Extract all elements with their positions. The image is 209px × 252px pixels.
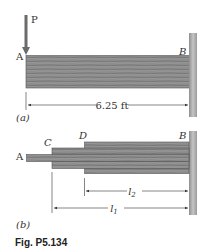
point-c-label: C <box>44 137 52 148</box>
point-a-label: A <box>15 151 24 162</box>
point-b-label: B <box>178 130 186 141</box>
point-a-label: A <box>15 51 24 62</box>
fixed-wall <box>189 131 197 215</box>
load-arrow-icon <box>22 15 30 55</box>
point-d-label: D <box>78 130 87 141</box>
plank-a <box>27 155 190 162</box>
fixed-wall <box>189 33 197 117</box>
length-dimension: 6.25 ft <box>95 100 128 111</box>
dimension-l2: l2 <box>128 186 136 199</box>
beam-figure: P A B 6.25 ft (a) A C D B l2 <box>0 0 209 252</box>
wood-beam <box>26 56 190 89</box>
part-b: A C D B l2 l1 (b) <box>15 130 197 230</box>
part-b-tag: (b) <box>16 219 30 230</box>
dimension-l1: l1 <box>110 203 118 216</box>
load-label: P <box>31 14 38 25</box>
part-a: P A B 6.25 ft (a) <box>15 14 197 123</box>
part-a-tag: (a) <box>16 112 30 123</box>
figure-caption: Fig. P5.134 <box>15 237 68 248</box>
